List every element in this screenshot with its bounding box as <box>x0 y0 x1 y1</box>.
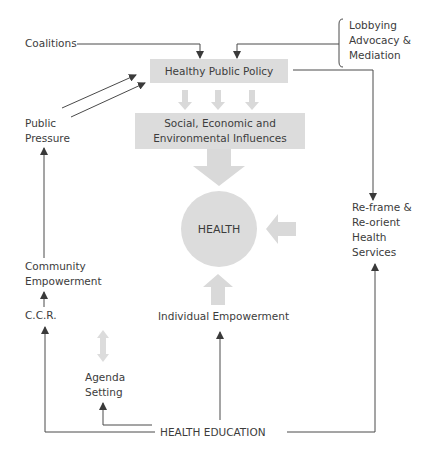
node-community-empowerment: Community Empowerment <box>25 259 102 289</box>
coalitions-connector <box>77 44 200 58</box>
node-individual-empowerment: Individual Empowerment <box>158 309 289 324</box>
lobbying-bracket <box>339 19 343 67</box>
public-pressure-arrow-1 <box>62 75 136 108</box>
reorient-line-1: Re-frame & <box>352 200 412 215</box>
agenda-line-1: Agenda <box>85 370 125 385</box>
node-health-education: HEALTH EDUCATION <box>160 425 266 440</box>
reorient-line-4: Services <box>352 245 412 260</box>
node-public-pressure: Public Pressure <box>25 116 70 146</box>
lobbying-line-2: Advocacy & <box>349 33 411 48</box>
influences-line-1: Social, Economic and <box>153 116 287 131</box>
lobbying-connector <box>237 44 339 58</box>
lobbying-line-1: Lobbying <box>349 18 411 33</box>
reorient-line-3: Health <box>352 230 412 245</box>
public-pressure-line-1: Public <box>25 116 70 131</box>
node-reorient-health-services: Re-frame & Re-orient Health Services <box>352 200 412 260</box>
healthy-public-policy-label: Healthy Public Policy <box>165 64 274 79</box>
node-lobbying: Lobbying Advocacy & Mediation <box>349 18 411 63</box>
community-line-2: Empowerment <box>25 274 102 289</box>
public-pressure-line-2: Pressure <box>25 131 70 146</box>
node-influences: Social, Economic and Environmental Influ… <box>135 113 305 149</box>
education-to-reorient-connector <box>287 264 375 432</box>
influences-line-2: Environmental Influences <box>153 131 287 146</box>
node-agenda-setting: Agenda Setting <box>85 370 125 400</box>
public-pressure-arrow-2 <box>71 83 145 117</box>
node-ccr: C.C.R. <box>25 308 57 323</box>
policy-to-reorient-connector <box>293 70 373 200</box>
individual-to-health-block-arrow <box>203 274 233 305</box>
agenda-line-2: Setting <box>85 385 125 400</box>
education-to-agenda-connector <box>103 403 152 425</box>
reorient-to-health-block-arrow <box>266 214 296 244</box>
influences-to-health-block-arrow <box>193 148 245 186</box>
node-health: HEALTH <box>181 191 257 267</box>
reorient-line-2: Re-orient <box>352 215 412 230</box>
policy-influence-block-arrows <box>178 90 259 110</box>
health-label: HEALTH <box>198 223 240 236</box>
node-coalitions: Coalitions <box>25 36 77 51</box>
lobbying-line-3: Mediation <box>349 48 411 63</box>
node-healthy-public-policy: Healthy Public Policy <box>150 59 288 83</box>
agenda-bidirectional-arrow <box>97 330 109 362</box>
community-line-1: Community <box>25 259 102 274</box>
